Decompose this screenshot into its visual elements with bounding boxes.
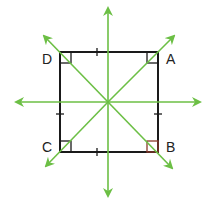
right-angle-mark-b — [147, 141, 158, 152]
symmetry-line-diagonal-bd — [108, 102, 172, 168]
vertex-label-d: D — [42, 51, 52, 67]
vertex-label-a: A — [166, 51, 176, 67]
vertex-label-c: C — [42, 139, 52, 155]
vertex-label-b: B — [166, 139, 175, 155]
symmetry-line-diagonal-bd — [44, 36, 108, 102]
symmetry-line-diagonal-ca — [46, 102, 108, 166]
square-symmetry-diagram: D A B C — [0, 0, 213, 203]
symmetry-line-diagonal-ca — [108, 36, 174, 102]
